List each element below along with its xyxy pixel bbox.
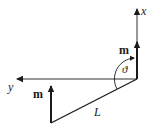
diagram-canvas — [0, 0, 156, 131]
y-axis-label: y — [8, 81, 13, 93]
dipole-geometry-diagram: x y m m ϑ L — [0, 0, 156, 131]
angle-label: ϑ — [122, 64, 127, 75]
moment-label-bottom: m — [33, 88, 43, 100]
moment-label-top: m — [119, 44, 129, 56]
length-label: L — [94, 106, 101, 118]
x-axis-label: x — [141, 5, 146, 17]
